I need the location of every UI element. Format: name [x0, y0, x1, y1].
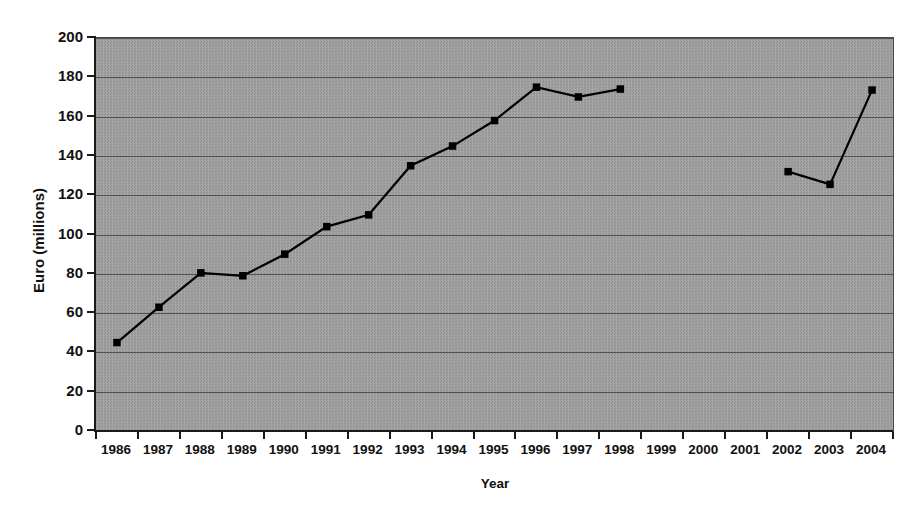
x-axis-tick [514, 432, 516, 439]
y-axis-tick [87, 75, 94, 77]
x-axis-tick-label: 2003 [808, 443, 850, 457]
y-axis-line [94, 36, 96, 432]
data-point-marker [617, 85, 625, 93]
x-axis-tick-label: 1997 [556, 443, 598, 457]
data-point-marker [826, 181, 834, 189]
y-axis-tick [87, 154, 94, 156]
data-point-marker [365, 211, 373, 219]
data-point-marker [784, 168, 792, 176]
x-axis-tick [305, 432, 307, 439]
x-axis-tick-label: 1991 [305, 443, 347, 457]
y-axis-tick-label: 40 [33, 343, 83, 358]
x-axis-tick-label: 1988 [179, 443, 221, 457]
data-point-marker [197, 269, 205, 277]
x-axis-tick-label: 1996 [514, 443, 556, 457]
y-axis-tick [87, 429, 94, 431]
x-axis-tick-label: 2001 [724, 443, 766, 457]
x-axis-tick [263, 432, 265, 439]
x-axis-tick [347, 432, 349, 439]
x-axis-tick [389, 432, 391, 439]
x-axis-tick-label: 1987 [137, 443, 179, 457]
x-axis-tick-label: 1993 [389, 443, 431, 457]
x-axis-tick [431, 432, 433, 439]
x-axis-tick [766, 432, 768, 439]
x-axis-tick [682, 432, 684, 439]
x-axis-tick-label: 1986 [95, 443, 137, 457]
x-axis-tick [137, 432, 139, 439]
data-point-marker [323, 223, 331, 231]
line-chart: 020406080100120140160180200 198619871988… [0, 0, 918, 511]
x-axis-tick [892, 432, 894, 439]
x-axis-title: Year [395, 476, 595, 491]
y-axis-tick-label: 20 [33, 383, 83, 398]
x-axis-tick-label: 1995 [473, 443, 515, 457]
y-axis-tick-label: 160 [33, 108, 83, 123]
y-axis-tick [87, 115, 94, 117]
x-axis-tick [808, 432, 810, 439]
y-axis-title: Euro (millions) [30, 141, 47, 341]
data-point-marker [491, 117, 499, 125]
data-point-marker [533, 83, 541, 91]
y-axis-tick [87, 36, 94, 38]
y-axis-tick-label: 180 [33, 68, 83, 83]
data-point-marker [449, 142, 457, 150]
data-point-marker [155, 304, 163, 312]
data-point-marker [868, 86, 876, 94]
x-axis-tick [598, 432, 600, 439]
plot-area [95, 37, 894, 432]
y-axis-tick [87, 193, 94, 195]
x-axis-tick-label: 2002 [766, 443, 808, 457]
x-axis-tick [221, 432, 223, 439]
series-line-segment [788, 90, 872, 184]
x-axis-tick-label: 1992 [347, 443, 389, 457]
data-point-marker [239, 272, 247, 280]
y-axis-tick [87, 350, 94, 352]
x-axis-tick-label: 2004 [850, 443, 892, 457]
x-axis-line [94, 430, 893, 432]
x-axis-tick [179, 432, 181, 439]
data-point-marker [407, 162, 415, 170]
x-axis-tick-label: 1990 [263, 443, 305, 457]
x-axis-tick-label: 1989 [221, 443, 263, 457]
data-point-marker [575, 93, 583, 101]
y-axis-tick [87, 272, 94, 274]
y-axis-tick [87, 233, 94, 235]
x-axis-tick [850, 432, 852, 439]
data-point-marker [113, 339, 121, 347]
data-series-line [96, 38, 893, 431]
data-point-marker [281, 250, 289, 258]
y-axis-tick-label: 0 [33, 422, 83, 437]
x-axis-tick [95, 432, 97, 439]
y-axis-tick [87, 311, 94, 313]
y-axis-tick [87, 390, 94, 392]
x-axis-tick [640, 432, 642, 439]
x-axis-tick [556, 432, 558, 439]
x-axis-tick-label: 1999 [640, 443, 682, 457]
x-axis-tick [724, 432, 726, 439]
x-axis-tick-label: 1998 [598, 443, 640, 457]
x-axis-tick [473, 432, 475, 439]
x-axis-tick-label: 2000 [682, 443, 724, 457]
y-axis-tick-label: 200 [33, 29, 83, 44]
x-axis-tick-label: 1994 [431, 443, 473, 457]
